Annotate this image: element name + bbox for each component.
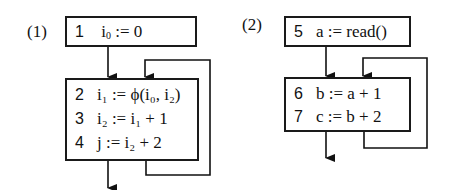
line-number: 2 [75, 86, 97, 104]
block-1: 1 i0 := 0 [65, 16, 197, 47]
expr: := 0 [111, 22, 142, 41]
code-line-6: 6b := a + 1 [294, 84, 381, 104]
block-5: 5a := read() [284, 16, 411, 47]
code-line-2: 2i₁ := ϕ(i₀, i₂) [75, 85, 181, 105]
statement: c := b + 2 [316, 107, 381, 127]
code-line-1: 1 i0 := 0 [75, 22, 142, 42]
line-number: 6 [294, 85, 316, 103]
statement: i0 := 0 [101, 22, 142, 42]
statement: j := i₂ + 2 [97, 133, 162, 153]
line-number: 3 [75, 110, 97, 128]
line-number: 5 [294, 23, 316, 41]
line-number: 1 [75, 23, 97, 41]
code-line-3: 3i₂ := i₁ + 1 [75, 109, 168, 129]
code-line-5: 5a := read() [294, 22, 387, 42]
code-line-4: 4j := i₂ + 2 [75, 133, 162, 153]
statement: a := read() [316, 22, 387, 42]
statement: i₁ := ϕ(i₀, i₂) [97, 85, 181, 105]
statement: b := a + 1 [316, 84, 381, 104]
block-6-7: 6b := a + 1 7c := b + 2 [284, 77, 411, 132]
block-2: 2i₁ := ϕ(i₀, i₂) 3i₂ := i₁ + 1 4j := i₂ … [65, 78, 199, 161]
diagram-1-label: (1) [27, 22, 47, 42]
code-line-7: 7c := b + 2 [294, 107, 381, 127]
statement: i₂ := i₁ + 1 [97, 109, 168, 129]
line-number: 4 [75, 134, 97, 152]
diagram-2-label: (2) [242, 15, 262, 35]
line-number: 7 [294, 108, 316, 126]
